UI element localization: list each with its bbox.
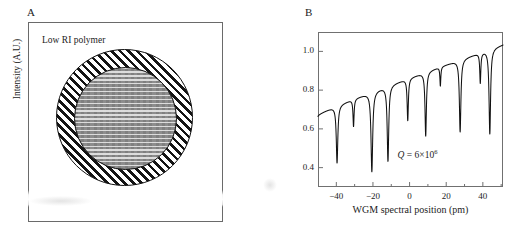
y-tick-label: 1.0 bbox=[290, 45, 314, 55]
q-equals: = bbox=[404, 150, 414, 160]
x-tick-label: 20 bbox=[433, 191, 459, 201]
spectrum-plot bbox=[318, 32, 503, 187]
x-tick-label: 0 bbox=[397, 191, 423, 201]
y-tick-label: 0.8 bbox=[290, 84, 314, 94]
q-exponent: 6 bbox=[434, 148, 437, 155]
x-tick-label: 40 bbox=[470, 191, 496, 201]
figure-container: A Low RI polymer B 0.40.60.81.0 −40−2002… bbox=[0, 0, 523, 239]
q-factor-annotation: Q = 6×106 bbox=[398, 148, 438, 160]
x-tick-label: −20 bbox=[360, 191, 386, 201]
panel-b-label: B bbox=[305, 6, 313, 18]
axis-ticks bbox=[318, 51, 501, 187]
x-tick-label: −40 bbox=[323, 191, 349, 201]
y-tick-label: 0.4 bbox=[290, 162, 314, 172]
microsphere-resonator-core bbox=[74, 67, 177, 170]
low-ri-polymer-coating-ring bbox=[56, 49, 193, 186]
q-mantissa: 6×10 bbox=[415, 150, 435, 160]
panel-a-schematic: A Low RI polymer bbox=[0, 0, 262, 239]
y-axis-title: Intensity (A.U.) bbox=[12, 14, 22, 124]
low-ri-polymer-label: Low RI polymer bbox=[42, 35, 105, 45]
y-tick-label: 0.6 bbox=[290, 123, 314, 133]
x-axis-title: WGM spectral position (pm) bbox=[318, 204, 503, 215]
panel-a-label: A bbox=[27, 6, 35, 18]
resonator-schematic bbox=[56, 49, 193, 186]
